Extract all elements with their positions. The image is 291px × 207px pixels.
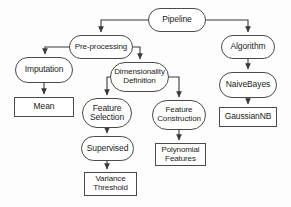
node-variance-threshold[interactable]: Variance Threshold bbox=[84, 172, 137, 196]
node-naive-bayes-label: NaiveBayes bbox=[224, 80, 272, 89]
node-gaussian-nb-label: GaussianNB bbox=[223, 112, 274, 121]
node-imputation[interactable]: Imputation bbox=[15, 57, 73, 83]
node-algorithm-label: Algorithm bbox=[228, 42, 267, 51]
node-pre-processing[interactable]: Pre-processing bbox=[69, 35, 133, 59]
node-feature-selection-label: Feature Selection bbox=[88, 104, 126, 122]
node-pipeline-label: Pipeline bbox=[160, 15, 193, 24]
edge-pipeline-algorithm bbox=[206, 20, 248, 32]
node-mean[interactable]: Mean bbox=[14, 97, 74, 117]
node-dimensionality-definition-label: Dimensionality Definition bbox=[112, 68, 167, 85]
node-supervised[interactable]: Supervised bbox=[81, 136, 134, 161]
edge-pre-processing-imputation bbox=[45, 47, 69, 54]
node-gaussian-nb[interactable]: GaussianNB bbox=[219, 107, 277, 127]
node-feature-construction-label: Feature Construction bbox=[155, 106, 203, 123]
node-naive-bayes[interactable]: NaiveBayes bbox=[219, 72, 277, 98]
node-feature-construction[interactable]: Feature Construction bbox=[152, 100, 206, 130]
node-polynomial-features[interactable]: Polynomial Features bbox=[155, 143, 206, 166]
node-pre-processing-label: Pre-processing bbox=[73, 43, 129, 52]
edge-pipeline-pre-processing bbox=[101, 20, 148, 32]
node-supervised-label: Supervised bbox=[85, 144, 131, 153]
node-polynomial-features-label: Polynomial Features bbox=[159, 146, 201, 163]
node-imputation-label: Imputation bbox=[23, 65, 66, 74]
node-feature-selection[interactable]: Feature Selection bbox=[82, 98, 132, 128]
node-variance-threshold-label: Variance Threshold bbox=[91, 175, 130, 192]
node-mean-label: Mean bbox=[32, 102, 57, 111]
edge-pre-processing-dimensionality bbox=[133, 47, 140, 59]
node-pipeline[interactable]: Pipeline bbox=[148, 8, 206, 32]
diagram-canvas: Pipeline Pre-processing Algorithm Imputa… bbox=[0, 0, 291, 207]
node-algorithm[interactable]: Algorithm bbox=[221, 35, 275, 59]
node-dimensionality-definition[interactable]: Dimensionality Definition bbox=[110, 62, 169, 92]
edge-dimensionality-feature-construction bbox=[169, 77, 179, 97]
